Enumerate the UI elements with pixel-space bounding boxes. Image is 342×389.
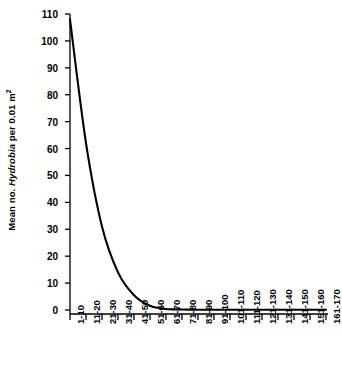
x-tick-label: 131-140	[283, 289, 294, 324]
x-tick-label: 21-30	[107, 300, 118, 324]
x-tick-label: 61-70	[171, 300, 182, 324]
x-tick-label: 141-150	[299, 289, 310, 324]
x-tick-label: 1-10	[75, 305, 86, 324]
x-tick-label: 11-20	[91, 300, 102, 324]
x-tick-label: 81-90	[203, 300, 214, 324]
x-tick-label: 51-60	[155, 300, 166, 324]
x-tick-label: 151-160	[315, 289, 326, 324]
x-tick-label: 121-130	[267, 289, 278, 324]
x-tick-label: 71-80	[187, 300, 198, 324]
x-tick-label: 31-40	[123, 300, 134, 324]
x-tick-label: 161-170	[331, 289, 342, 324]
x-tick-label: 111-120	[251, 290, 262, 324]
x-tick-label: 91-100	[219, 294, 230, 324]
x-tick-label: 41-50	[139, 300, 150, 324]
x-tick-label: 101-110	[235, 290, 246, 324]
